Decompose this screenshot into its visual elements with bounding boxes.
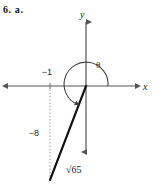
y-axis-label: y xyxy=(79,9,85,20)
hypotenuse-length-label: √65 xyxy=(66,164,82,175)
x-axis-label: x xyxy=(142,81,148,92)
angle-diagram-svg: y x θ −1 −8 √65 xyxy=(0,0,161,188)
theta-label: θ xyxy=(96,60,100,70)
x-value-label: −1 xyxy=(42,67,52,77)
y-value-label: −8 xyxy=(29,128,39,138)
figure-container: 6. a. y x xyxy=(0,0,161,188)
